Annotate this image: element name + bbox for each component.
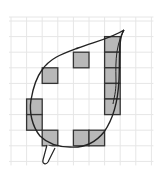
shaded-square <box>105 99 121 115</box>
leaf-grid-diagram <box>0 0 162 178</box>
diagram-canvas <box>0 0 162 178</box>
shaded-square <box>105 52 121 68</box>
shaded-square <box>27 99 43 115</box>
shaded-square <box>105 37 121 53</box>
shaded-square <box>42 68 58 84</box>
shaded-square <box>105 68 121 84</box>
shaded-square <box>73 130 89 146</box>
shaded-square <box>73 52 89 68</box>
